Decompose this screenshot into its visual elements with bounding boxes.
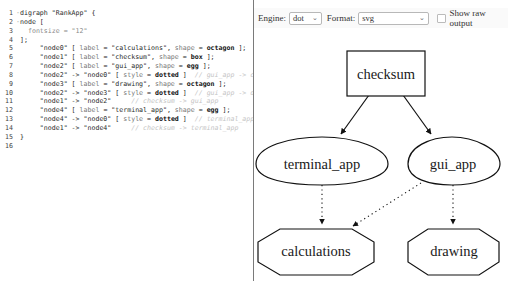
line-content: ]; (20, 36, 28, 45)
code-token: "node2" -> "node0" [ (20, 71, 123, 79)
node-terminal-app[interactable]: terminal_app (256, 137, 388, 185)
edge-checksum-gui-app (403, 95, 431, 134)
node-checksum[interactable]: checksum (347, 51, 425, 96)
code-line[interactable]: 4]; (0, 36, 253, 45)
code-token: digraph "RankApp" { (20, 9, 95, 17)
code-line[interactable]: 2·node [ (0, 18, 253, 27)
node-drawing[interactable]: drawing (408, 229, 499, 275)
code-token: ]; (215, 80, 227, 88)
line-content: "node1" -> "node2" // checksum -> gui_ap… (20, 97, 219, 106)
line-content: "node2" -> "node3" [ style = dotted ] //… (20, 89, 253, 98)
node-label: drawing (430, 243, 478, 259)
code-token: style (123, 89, 143, 97)
code-token: box (191, 53, 203, 61)
code-line[interactable]: 8 "node2" -> "node0" [ style = dotted ] … (0, 71, 253, 80)
code-token: dotted (155, 89, 179, 97)
code-token: ] (179, 71, 187, 79)
code-comment: // terminal_app -> calculations (187, 115, 253, 123)
code-line[interactable]: 10 "node2" -> "node3" [ style = dotted ]… (0, 89, 253, 98)
code-token: style (123, 115, 143, 123)
code-line[interactable]: 9 "node3" [ label = "drawing", shape = o… (0, 80, 253, 89)
node-label: terminal_app (284, 156, 361, 172)
code-comment: // gui_app -> drawing (187, 89, 253, 97)
code-line[interactable]: 5 "node0" [ label = "calculations", shap… (0, 44, 253, 53)
code-token: egg (187, 62, 199, 70)
code-lines[interactable]: 1·digraph "RankApp" {2·node [3 fontsize … (0, 9, 253, 151)
line-content: "node3" [ label = "drawing", shape = oct… (20, 80, 226, 89)
code-token: = "checksum", (99, 53, 159, 61)
code-token: ]; (234, 44, 246, 52)
code-token: ]; (219, 106, 231, 114)
code-token: = (195, 106, 207, 114)
line-number: 7 (0, 62, 16, 71)
code-token: "node0" [ (20, 44, 80, 52)
code-token: shape (159, 53, 179, 61)
line-number: 4 (0, 36, 16, 45)
code-token: "node4" -> "node0" [ (20, 115, 123, 123)
code-token: = (143, 115, 155, 123)
node-gui-app[interactable]: gui_app (408, 137, 500, 185)
line-number: 8 (0, 71, 16, 80)
line-content: "node4" -> "node0" [ style = dotted ] //… (20, 115, 253, 124)
edge-checksum-terminal-app (341, 95, 369, 134)
code-token: egg (207, 106, 219, 114)
code-token: label (80, 44, 100, 52)
app-window: 1·digraph "RankApp" {2·node [3 fontsize … (0, 0, 508, 281)
code-editor[interactable]: 1·digraph "RankApp" {2·node [3 fontsize … (0, 0, 253, 281)
line-content: "node0" [ label = "calculations", shape … (20, 44, 246, 53)
node-label: gui_app (430, 156, 477, 172)
line-content: "node4" [ label = "terminal_app", shape … (20, 106, 230, 115)
line-content: } (20, 133, 24, 142)
code-comment: // gui_app -> calculations (187, 71, 253, 79)
code-token: shape (155, 62, 175, 70)
code-token: = (179, 53, 191, 61)
node-label: calculations (281, 243, 351, 259)
line-number: 5 (0, 44, 16, 53)
code-token: shape (155, 80, 175, 88)
code-token: = "gui_app", (99, 62, 155, 70)
code-token: shape (175, 106, 195, 114)
code-token: shape (175, 44, 195, 52)
code-token: "node3" [ (20, 80, 80, 88)
code-line[interactable]: 7 "node2" [ label = "gui_app", shape = e… (0, 62, 253, 71)
line-number: 2 (0, 18, 16, 27)
code-line[interactable]: 13 "node4" -> "node0" [ style = dotted ]… (0, 115, 253, 124)
code-line[interactable]: 16 (0, 142, 253, 151)
line-content: node [ (20, 18, 44, 27)
code-token: = (143, 71, 155, 79)
line-number: 16 (0, 142, 16, 151)
code-token: octagon (207, 44, 235, 52)
code-token: fontsize = "12" (20, 27, 88, 35)
line-number: 12 (0, 106, 16, 115)
line-content: digraph "RankApp" { (20, 9, 95, 18)
code-token: = "drawing", (99, 80, 155, 88)
line-content: "node2" -> "node0" [ style = dotted ] //… (20, 71, 253, 80)
code-line[interactable]: 11 "node1" -> "node2" // checksum -> gui… (0, 97, 253, 106)
line-number: 3 (0, 27, 16, 36)
code-line[interactable]: 6 "node1" [ label = "checksum", shape = … (0, 53, 253, 62)
code-line[interactable]: 15} (0, 133, 253, 142)
code-token: = (195, 44, 207, 52)
line-content: "node2" [ label = "gui_app", shape = egg… (20, 62, 211, 71)
code-token: ]; (199, 62, 211, 70)
gutter-spacer (16, 142, 20, 151)
code-token: = (143, 89, 155, 97)
code-token: ]; (203, 53, 215, 61)
code-token: "node1" -> "node4" (20, 124, 111, 132)
code-line[interactable]: 14 "node1" -> "node4" // checksum -> ter… (0, 124, 253, 133)
code-token: = (175, 80, 187, 88)
code-token: = "terminal_app", (99, 106, 174, 114)
line-content: "node1" [ label = "checksum", shape = bo… (20, 53, 215, 62)
code-token: dotted (155, 71, 179, 79)
code-line[interactable]: 1·digraph "RankApp" { (0, 9, 253, 18)
code-line[interactable]: 3 fontsize = "12" (0, 27, 253, 36)
code-token: "node4" [ (20, 106, 80, 114)
code-token: node [ (20, 18, 44, 26)
line-number: 13 (0, 115, 16, 124)
code-line[interactable]: 12 "node4" [ label = "terminal_app", sha… (0, 106, 253, 115)
code-token: ]; (20, 36, 28, 44)
code-token: } (20, 133, 24, 141)
node-calculations[interactable]: calculations (258, 229, 374, 275)
code-token: style (123, 71, 143, 79)
code-token: label (80, 80, 100, 88)
